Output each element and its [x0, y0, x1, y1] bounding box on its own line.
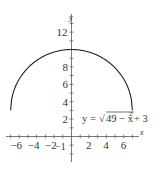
- x-axis-label: x: [139, 128, 144, 137]
- svg-text:y =: y =: [82, 113, 96, 124]
- svg-text:√: √: [99, 113, 105, 124]
- svg-text:2: 2: [86, 139, 92, 151]
- x-tick-labels: −6−4−2246: [10, 139, 126, 151]
- svg-text:2: 2: [63, 113, 69, 125]
- origin-label: −1: [55, 141, 66, 152]
- equation-label: y = √ 49 − x 2 + 3: [82, 110, 148, 124]
- svg-text:−4: −4: [28, 139, 40, 151]
- svg-text:−6: −6: [10, 139, 22, 151]
- svg-text:12: 12: [57, 26, 68, 38]
- chart: x y −6−4−2246 246812 −1 y = √ 49 − x 2 +…: [0, 0, 160, 170]
- svg-text:6: 6: [121, 139, 127, 151]
- svg-text:2: 2: [129, 110, 133, 118]
- svg-text:6: 6: [63, 78, 69, 90]
- svg-text:4: 4: [103, 139, 109, 151]
- y-axis-label: y: [68, 13, 73, 22]
- svg-text:4: 4: [63, 96, 69, 108]
- svg-text:+ 3: + 3: [134, 113, 148, 124]
- svg-text:8: 8: [63, 61, 69, 73]
- y-tick-labels: 246812: [57, 26, 69, 125]
